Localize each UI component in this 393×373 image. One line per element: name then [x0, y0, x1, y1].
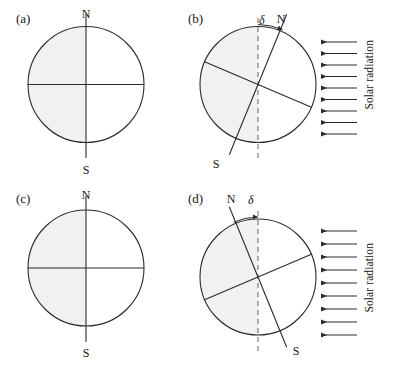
- panel-a-south-label: S: [74, 163, 98, 178]
- panel-c-graphic: [0, 186, 196, 373]
- panel-b: (b) δ N S Solar radiation: [186, 0, 393, 186]
- earth-tilt-figure: (a) N S (b) δ N S Solar radiation: [0, 0, 393, 373]
- panel-d-north-label: N: [224, 192, 238, 207]
- panel-d: (d) N δ S Solar radiation: [186, 186, 393, 373]
- panel-d-label: (d): [188, 191, 203, 207]
- panel-b-label: (b): [188, 11, 203, 27]
- panel-a: (a) N S: [0, 0, 196, 186]
- panel-c-north-label: N: [74, 188, 98, 203]
- panel-b-solar-radiation-label: Solar radiation: [363, 40, 375, 110]
- panel-b-delta-label: δ: [259, 13, 265, 28]
- panel-d-south-label: S: [289, 344, 303, 359]
- panel-b-shaded-half: [200, 27, 258, 143]
- panel-d-shaded-half: [200, 219, 258, 335]
- panel-b-south-label: S: [209, 157, 223, 172]
- panel-c: (c) N S: [0, 186, 196, 373]
- panel-d-solar-radiation-label: Solar radiation: [363, 243, 375, 313]
- panel-d-solar-arrows: [321, 231, 357, 335]
- panel-c-south-label: S: [74, 346, 98, 361]
- panel-a-north-label: N: [74, 7, 98, 22]
- panel-b-solar-arrows: [321, 42, 357, 134]
- panel-a-graphic: [0, 0, 196, 186]
- panel-c-label: (c): [16, 191, 30, 207]
- panel-a-label: (a): [16, 11, 30, 27]
- panel-d-delta-label: δ: [248, 193, 254, 208]
- panel-b-north-label: N: [274, 12, 288, 27]
